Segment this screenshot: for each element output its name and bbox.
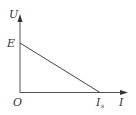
characteristic-line [20, 43, 100, 93]
i-axis-label: I [118, 96, 124, 109]
e-label: E [6, 37, 15, 50]
u-i-graph: U E O I s I [0, 0, 136, 115]
i-axis-arrow-icon [120, 90, 128, 95]
u-axis-label: U [9, 8, 19, 21]
is-subscript: s [101, 102, 104, 109]
origin-label: O [13, 96, 22, 109]
